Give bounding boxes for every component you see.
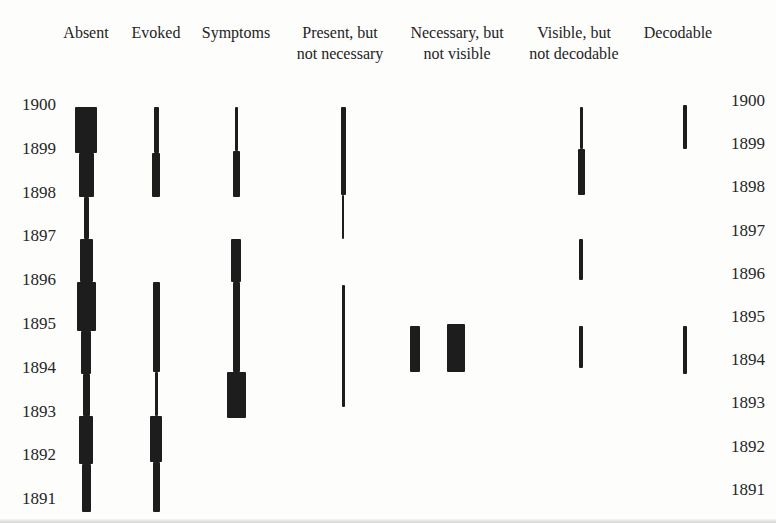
column-header-necessary-but-not-visible: Necessary, butnot visible (410, 22, 503, 64)
year-label-left-1893: 1893 (14, 403, 56, 421)
column-header-line: Decodable (644, 22, 712, 43)
year-label-right-1898: 1898 (731, 178, 773, 196)
column-header-line: Visible, but (529, 22, 618, 43)
strip-absent-0 (75, 107, 97, 153)
year-label-right-1900: 1900 (731, 92, 773, 110)
column-header-decodable: Decodable (644, 22, 712, 43)
strip-evoked-4 (150, 416, 162, 462)
strip-decodable-0 (683, 105, 687, 149)
strip-visible-but-not-decodable-1 (578, 149, 585, 195)
strip-evoked-3 (155, 372, 158, 416)
strip-necessary-but-not-visible-1 (447, 324, 465, 372)
strip-symptoms-1 (233, 151, 240, 197)
year-label-left-1895: 1895 (14, 315, 56, 333)
year-label-right-1894: 1894 (731, 351, 773, 369)
strip-symptoms-3 (233, 282, 240, 372)
strip-evoked-5 (153, 462, 160, 512)
column-header-line: Present, but (297, 22, 384, 43)
year-label-right-1896: 1896 (731, 265, 773, 283)
strip-decodable-1 (683, 326, 687, 374)
strip-absent-3 (80, 239, 93, 283)
strip-absent-7 (79, 416, 93, 464)
strip-evoked-0 (154, 107, 159, 153)
column-header-line: Symptoms (202, 22, 270, 43)
strip-absent-8 (82, 464, 91, 512)
column-header-line: not decodable (529, 43, 618, 64)
column-header-absent: Absent (63, 22, 108, 43)
year-label-right-1899: 1899 (731, 135, 773, 153)
year-label-right-1892: 1892 (731, 438, 773, 456)
chart-figure: AbsentEvokedSymptomsPresent, butnot nece… (0, 0, 776, 523)
column-header-line: Necessary, but (410, 22, 503, 43)
strip-symptoms-4 (227, 372, 246, 418)
strip-necessary-but-not-visible-0 (410, 326, 420, 372)
year-label-left-1894: 1894 (14, 359, 56, 377)
column-header-visible-but-not-decodable: Visible, butnot decodable (529, 22, 618, 64)
year-label-left-1891: 1891 (14, 490, 56, 508)
year-label-right-1891: 1891 (731, 481, 773, 499)
strip-present-but-not-necessary-2 (342, 285, 345, 408)
strip-absent-2 (84, 197, 89, 239)
column-header-line: Evoked (132, 22, 181, 43)
column-header-symptoms: Symptoms (202, 22, 270, 43)
strip-symptoms-2 (231, 239, 241, 283)
strip-visible-but-not-decodable-2 (579, 239, 583, 281)
year-label-right-1897: 1897 (731, 222, 773, 240)
year-label-left-1900: 1900 (14, 96, 56, 114)
strip-present-but-not-necessary-0 (341, 107, 346, 195)
strip-visible-but-not-decodable-3 (579, 326, 583, 368)
year-label-left-1892: 1892 (14, 446, 56, 464)
column-header-line: not necessary (297, 43, 384, 64)
year-label-left-1896: 1896 (14, 271, 56, 289)
year-label-left-1898: 1898 (14, 184, 56, 202)
year-label-right-1895: 1895 (731, 308, 773, 326)
strip-evoked-2 (153, 282, 160, 372)
column-header-present-but-not-necessary: Present, butnot necessary (297, 22, 384, 64)
strip-evoked-1 (152, 153, 160, 197)
year-label-right-1893: 1893 (731, 394, 773, 412)
column-header-evoked: Evoked (132, 22, 181, 43)
strip-absent-4 (77, 282, 96, 330)
strip-symptoms-0 (235, 107, 238, 151)
strip-present-but-not-necessary-1 (342, 195, 344, 239)
strip-absent-1 (79, 153, 94, 197)
column-header-line: not visible (410, 43, 503, 64)
strip-absent-5 (81, 331, 91, 375)
year-label-left-1897: 1897 (14, 227, 56, 245)
column-header-line: Absent (63, 22, 108, 43)
year-label-left-1899: 1899 (14, 140, 56, 158)
page-edge-shadow (0, 519, 776, 523)
strip-visible-but-not-decodable-0 (580, 107, 583, 149)
strip-absent-6 (83, 374, 90, 416)
